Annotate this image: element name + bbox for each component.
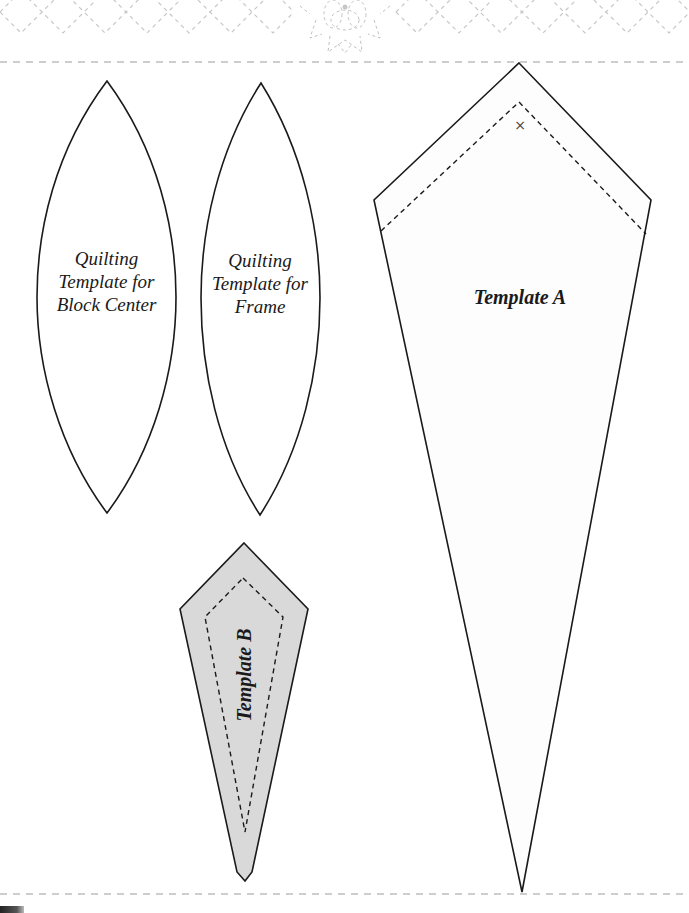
frame-label: Quilting Template for Frame (194, 249, 326, 318)
block-center-label-line3: Block Center (37, 293, 176, 316)
block-center-label-line2: Template for (37, 270, 176, 293)
frame-label-line3: Frame (194, 295, 326, 318)
block-center-label: Quilting Template for Block Center (37, 247, 176, 316)
template-a-center-mark: × (512, 117, 528, 133)
flower-motif-icon (300, 0, 390, 53)
frame-label-line2: Template for (194, 272, 326, 295)
template-b-label: Template B (233, 615, 256, 735)
template-a-label: Template A (440, 286, 600, 309)
frame-label-line1: Quilting (194, 249, 326, 272)
block-center-label-line1: Quilting (37, 247, 176, 270)
template-drawing (0, 0, 689, 913)
template-a-shape (374, 63, 651, 892)
template-page: Quilting Template for Block Center Quilt… (0, 0, 689, 913)
scan-artifact (0, 906, 24, 913)
